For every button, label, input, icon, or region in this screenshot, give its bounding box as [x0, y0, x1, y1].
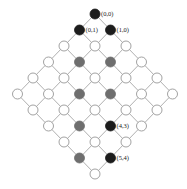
gray-node	[75, 89, 85, 99]
empty-node	[152, 73, 162, 83]
empty-node	[28, 73, 38, 83]
empty-node	[137, 89, 147, 99]
empty-node	[137, 121, 147, 131]
black-node	[75, 25, 85, 35]
node-label: (0,1)	[86, 26, 98, 34]
empty-node	[90, 137, 100, 147]
empty-node	[59, 105, 69, 115]
node-label: (0,0)	[101, 10, 113, 18]
node-label: (1,0)	[117, 26, 129, 34]
empty-node	[28, 105, 38, 115]
black-node	[106, 25, 116, 35]
lattice-diagram: (0,0)(0,1)(1,0)(4,3)(5,4)	[0, 0, 187, 189]
empty-node	[121, 137, 131, 147]
empty-node	[44, 89, 54, 99]
lattice-edges	[18, 14, 173, 174]
empty-node	[90, 73, 100, 83]
empty-node	[121, 105, 131, 115]
empty-node	[90, 41, 100, 51]
empty-node	[59, 137, 69, 147]
node-label: (5,4)	[117, 154, 129, 162]
black-node	[90, 9, 100, 19]
empty-node	[152, 105, 162, 115]
gray-node	[75, 153, 85, 163]
empty-node	[121, 41, 131, 51]
black-node	[106, 121, 116, 131]
gray-node	[106, 57, 116, 67]
gray-node	[75, 121, 85, 131]
lattice-nodes	[13, 9, 178, 179]
empty-node	[13, 89, 23, 99]
empty-node	[90, 105, 100, 115]
gray-node	[75, 57, 85, 67]
black-node	[106, 153, 116, 163]
gray-node	[106, 89, 116, 99]
empty-node	[121, 73, 131, 83]
empty-node	[137, 57, 147, 67]
empty-node	[44, 121, 54, 131]
empty-node	[59, 73, 69, 83]
empty-node	[44, 57, 54, 67]
empty-node	[90, 169, 100, 179]
empty-node	[59, 41, 69, 51]
empty-node	[168, 89, 178, 99]
node-label: (4,3)	[117, 122, 129, 130]
